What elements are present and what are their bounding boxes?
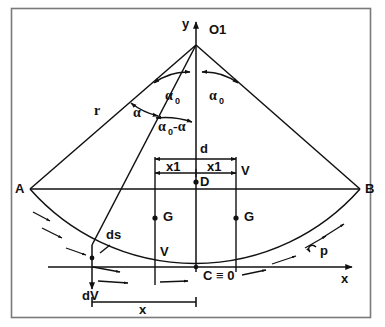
label-weight-right: G (244, 209, 254, 224)
label-x-axis: x (341, 271, 349, 286)
label-point-d: D (200, 174, 209, 189)
label-y-axis: y (182, 16, 190, 31)
svg-text:α: α (165, 88, 173, 103)
label-arc-element-ds: ds (106, 227, 121, 242)
label-alpha: α (133, 105, 141, 120)
svg-text:0: 0 (219, 96, 224, 106)
diagram-canvas: O1 y x A B D C ≡ 0 r α 0 α 0 α α 0 -α d … (0, 0, 385, 327)
svg-text:α: α (158, 119, 166, 134)
label-radius-r: r (94, 103, 100, 118)
geometry-figure: O1 y x A B D C ≡ 0 r α 0 α 0 α α 0 -α d … (0, 0, 385, 327)
node-d-dot (193, 179, 198, 184)
label-point-a: A (15, 181, 25, 196)
label-distance-x: x (139, 302, 147, 317)
label-point-c: C ≡ 0 (203, 268, 234, 283)
node-g-right-dot (233, 215, 238, 220)
node-g-left-dot (152, 215, 157, 220)
svg-text:-α: -α (173, 119, 186, 134)
dv-origin-dot (90, 256, 95, 261)
label-x1-left: x1 (166, 159, 180, 174)
node-c-dot (194, 265, 199, 270)
label-x1-right: x1 (207, 159, 221, 174)
svg-text:0: 0 (175, 96, 180, 106)
label-o1: O1 (209, 22, 226, 37)
label-width-d: d (200, 141, 208, 156)
svg-text:α: α (209, 88, 217, 103)
label-weight-left: G (163, 209, 173, 224)
label-pressure-p: p (320, 243, 328, 258)
label-delta-velocity-dv: dV (82, 288, 99, 303)
label-velocity-right: V (241, 163, 250, 178)
label-point-b: B (365, 181, 374, 196)
label-velocity-left: V (160, 244, 169, 259)
